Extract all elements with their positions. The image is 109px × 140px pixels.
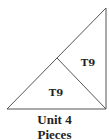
piece-label-upper: T9: [81, 57, 95, 68]
tangram-unit-diagram: T9 T9: [0, 0, 109, 112]
unit-title: Unit 4: [0, 113, 109, 127]
unit-subtitle: Pieces: [0, 128, 109, 140]
piece-label-lower: T9: [49, 87, 63, 98]
